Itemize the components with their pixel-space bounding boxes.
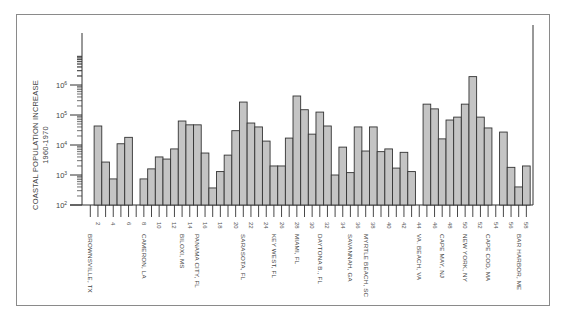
bar [194,125,202,205]
bar [400,152,408,205]
x-tick-number: 20 [233,222,239,229]
x-tick-number: 40 [386,222,392,229]
bar [270,166,278,205]
city-label: DAYTONA B., FL [317,234,324,284]
y-axis-label: COASTAL POPULATION INCREASE [31,80,40,210]
bar [186,125,194,205]
x-tick-number: 32 [324,222,330,229]
city-label: SAVANNAH, GA [347,234,354,283]
bar [94,126,102,205]
bar [178,121,186,205]
city-label: VA. BEACH, VA [416,234,423,281]
bar [408,172,416,205]
x-tick-number: 4 [110,222,116,226]
bar [239,102,247,205]
bar [469,77,477,205]
x-tick-number: 14 [187,222,193,229]
bar [155,157,163,205]
bar [385,149,393,205]
x-tick-number: 22 [248,222,254,229]
bar [209,188,217,205]
x-tick-number: 8 [141,222,147,226]
y-tick-label: 106 [56,80,67,90]
bar [431,109,439,205]
x-tick-number: 18 [217,222,223,229]
bar [347,173,355,205]
bar [148,169,156,205]
y-axis-sublabel: 1960-1970 [41,126,50,164]
city-label: BAR HARBOR, ME [516,234,523,290]
bar [308,134,316,205]
x-tick-number: 38 [370,222,376,229]
bars [94,77,530,205]
bar [461,104,469,205]
x-tick-number: 58 [523,222,529,229]
x-axis: 2468101214161820222426283032343638404244… [87,205,529,298]
bar [354,127,362,205]
bar [477,117,485,205]
bar [201,153,209,205]
city-label: BROWNSVILLE, TX [87,234,94,293]
bar [293,96,301,205]
city-label: CAPE MAY, NJ [439,234,446,278]
city-label: KEY WEST, FL [271,234,278,279]
bar [255,127,263,205]
bar [247,123,255,205]
x-tick-number: 44 [416,222,422,229]
bar [523,166,531,205]
x-tick-number: 46 [432,222,438,229]
x-tick-number: 28 [294,222,300,229]
bar [515,187,523,205]
bar [377,152,385,205]
bar [102,162,110,205]
bar [500,132,508,205]
bar [125,137,133,205]
x-tick-number: 56 [508,222,514,229]
city-label: PANAMA CITY, FL [194,234,201,288]
bar [217,172,225,205]
x-tick-number: 50 [462,222,468,229]
bar [163,159,171,205]
x-tick-number: 42 [401,222,407,229]
bar [232,131,240,205]
y-tick-label: 102 [56,200,67,210]
bar [339,147,347,205]
bar [301,110,309,205]
bar [117,144,125,205]
city-label: MYRTLE BEACH, SC [363,234,370,298]
bar [507,167,515,205]
bar [331,175,339,205]
bar [454,117,462,205]
x-tick-number: 48 [447,222,453,229]
city-label: CAMERON, LA [141,234,148,280]
bar-chart: COASTAL POPULATION INCREASE 1960-1970 10… [0,0,566,320]
bar [484,128,492,205]
bar [262,141,270,205]
x-tick-number: 30 [309,222,315,229]
bar [324,126,332,205]
city-label: MIAMI, FL [294,234,301,265]
city-label: BILOXI, MS [179,234,186,269]
city-label: NEW YORK, NY [462,234,469,282]
x-tick-number: 16 [202,222,208,229]
bar [278,166,286,205]
bar [171,149,179,205]
x-tick-number: 36 [355,222,361,229]
x-tick-number: 2 [95,222,101,226]
bar [316,112,324,205]
bar [224,155,232,205]
bar [285,138,293,205]
x-tick-number: 12 [171,222,177,229]
x-tick-number: 24 [263,222,269,229]
x-tick-number: 10 [156,222,162,229]
x-tick-number: 26 [279,222,285,229]
city-label: SARASOTA, FL [240,234,247,281]
x-tick-number: 6 [126,222,132,226]
y-tick-label: 105 [56,110,67,120]
x-tick-number: 52 [477,222,483,229]
x-tick-number: 34 [340,222,346,229]
bar [438,139,446,205]
bar [362,151,370,205]
bar [109,179,117,205]
city-label: CAPE COD, MA [485,234,492,282]
